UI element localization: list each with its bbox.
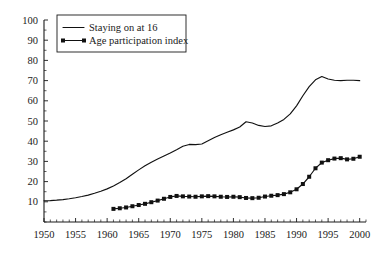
data-point-marker <box>206 194 210 198</box>
y-axis-tick-label: 10 <box>28 196 39 207</box>
data-point-marker <box>130 204 134 208</box>
data-point-marker <box>219 195 223 199</box>
y-axis-tick-label: 20 <box>28 176 39 187</box>
x-axis-major-ticks <box>44 218 360 222</box>
data-point-marker <box>295 187 299 191</box>
legend-label-age-participation-index: Age participation index <box>89 35 189 46</box>
data-point-marker <box>181 194 185 198</box>
data-point-marker <box>238 195 242 199</box>
y-axis: 102030405060708090100 <box>22 15 48 222</box>
data-point-marker <box>345 157 349 161</box>
x-axis-tick-label: 1965 <box>128 229 149 240</box>
data-point-marker <box>124 205 128 209</box>
x-axis-tick-label: 1970 <box>160 229 181 240</box>
data-point-marker <box>168 195 172 199</box>
data-point-marker <box>351 157 355 161</box>
y-axis-tick-label: 50 <box>28 116 39 127</box>
legend-square-marker <box>61 39 65 43</box>
y-axis-tick-label: 100 <box>22 15 38 26</box>
y-axis-tick-label: 70 <box>28 75 39 86</box>
y-axis-tick-label: 90 <box>28 35 39 46</box>
x-axis-tick-label: 1950 <box>34 229 55 240</box>
data-point-marker <box>149 200 153 204</box>
data-point-marker <box>111 207 115 211</box>
x-axis-tick-label: 1995 <box>318 229 339 240</box>
x-axis-tick-label: 1980 <box>223 229 244 240</box>
data-point-marker <box>326 158 330 162</box>
data-point-marker <box>269 194 273 198</box>
data-point-marker <box>257 196 261 200</box>
data-point-marker <box>244 196 248 200</box>
x-axis-tick-label: 1955 <box>65 229 86 240</box>
data-point-marker <box>118 206 122 210</box>
data-point-marker <box>156 199 160 203</box>
x-axis-tick-labels: 1950195519601965197019751980198519901995… <box>34 229 371 240</box>
x-axis: 1950195519601965197019751980198519901995… <box>34 218 371 240</box>
data-point-marker <box>320 161 324 165</box>
series-staying-on-at-16-line <box>44 77 360 201</box>
x-axis-tick-label: 1985 <box>254 229 275 240</box>
data-point-marker <box>276 193 280 197</box>
plot-area <box>44 77 362 211</box>
data-point-marker <box>250 196 254 200</box>
data-point-marker <box>200 194 204 198</box>
chart-figure: 102030405060708090100 195019551960196519… <box>0 0 372 253</box>
x-axis-tick-label: 1960 <box>97 229 118 240</box>
data-point-marker <box>175 194 179 198</box>
data-point-marker <box>288 190 292 194</box>
y-axis-tick-labels: 102030405060708090100 <box>22 15 38 208</box>
data-point-marker <box>263 195 267 199</box>
data-point-marker <box>187 195 191 199</box>
legend-box <box>57 15 186 52</box>
chart-legend: Staying on at 16 Age participation index <box>57 15 189 52</box>
data-point-marker <box>307 175 311 179</box>
x-axis-tick-label: 2000 <box>349 229 370 240</box>
data-point-marker <box>212 194 216 198</box>
line-chart: 102030405060708090100 195019551960196519… <box>0 0 372 253</box>
data-point-marker <box>231 195 235 199</box>
data-point-marker <box>339 156 343 160</box>
x-axis-tick-label: 1975 <box>191 229 212 240</box>
data-point-marker <box>137 203 141 207</box>
data-point-marker <box>194 195 198 199</box>
data-point-marker <box>282 192 286 196</box>
legend-square-marker <box>82 39 86 43</box>
y-axis-tick-label: 40 <box>28 136 39 147</box>
data-point-marker <box>358 155 362 159</box>
y-axis-tick-label: 80 <box>28 55 39 66</box>
data-point-marker <box>225 195 229 199</box>
data-point-marker <box>313 166 317 170</box>
data-point-marker <box>162 197 166 201</box>
data-point-marker <box>143 202 147 206</box>
x-axis-tick-label: 1990 <box>286 229 307 240</box>
legend-label-staying-on-at-16: Staying on at 16 <box>89 22 158 33</box>
data-point-marker <box>301 182 305 186</box>
y-axis-tick-label: 30 <box>28 156 39 167</box>
data-point-marker <box>332 157 336 161</box>
y-axis-tick-label: 60 <box>28 95 39 106</box>
